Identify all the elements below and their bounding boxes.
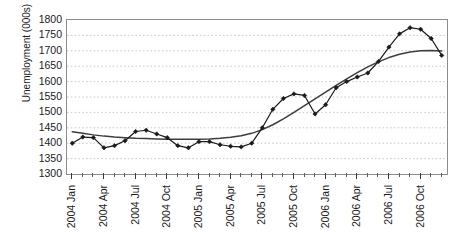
x-tick-mark: [92, 173, 93, 177]
data-point-marker: [292, 92, 296, 96]
x-tick-mark: [261, 173, 262, 179]
x-tick-mark: [356, 173, 357, 179]
y-tick-label: 1600: [18, 76, 62, 86]
x-tick-mark: [346, 173, 347, 177]
y-tick-label: 1750: [18, 29, 62, 39]
x-tick-mark: [114, 173, 115, 177]
x-tick-label: 2006 Oct: [414, 185, 426, 248]
y-tick-label: 1500: [18, 106, 62, 116]
y-tick-label: 1550: [18, 91, 62, 101]
y-tick-label: 1350: [18, 153, 62, 163]
y-tick-label: 1700: [18, 45, 62, 55]
x-tick-mark: [325, 173, 326, 179]
x-tick-mark: [177, 173, 178, 177]
x-tick-label: 2006 Apr: [350, 185, 362, 248]
x-tick-mark: [198, 173, 199, 179]
x-tick-label: 2004 Jan: [65, 185, 77, 248]
y-tick-label: 1400: [18, 137, 62, 147]
data-point-marker: [155, 132, 159, 136]
x-tick-mark: [367, 173, 368, 177]
x-tick-mark: [430, 173, 431, 177]
data-point-marker: [355, 75, 359, 79]
x-tick-mark: [293, 173, 294, 179]
x-tick-label: 2005 Apr: [224, 185, 236, 248]
x-tick-mark: [187, 173, 188, 177]
x-tick-mark: [409, 173, 410, 177]
trend-line: [72, 50, 441, 139]
x-tick-label: 2006 Jul: [382, 185, 394, 248]
x-tick-mark: [314, 173, 315, 177]
y-axis-tick-labels: 1800175017001650160015501500145014001350…: [18, 12, 62, 180]
data-point-marker: [144, 128, 148, 132]
x-tick-mark: [240, 173, 241, 177]
data-point-marker: [239, 145, 243, 149]
x-tick-label: 2004 Jul: [129, 185, 141, 248]
x-axis-tick-marks: [66, 173, 448, 180]
y-tick-label: 1650: [18, 60, 62, 70]
x-tick-mark: [377, 173, 378, 177]
x-tick-mark: [441, 173, 442, 177]
data-point-marker: [112, 143, 116, 147]
x-tick-label: 2004 Oct: [160, 185, 172, 248]
x-tick-label: 2005 Oct: [287, 185, 299, 248]
x-tick-mark: [145, 173, 146, 177]
x-tick-mark: [230, 173, 231, 179]
x-tick-mark: [219, 173, 220, 177]
plot-svg: [67, 20, 447, 174]
x-tick-mark: [156, 173, 157, 177]
x-tick-mark: [282, 173, 283, 177]
x-tick-mark: [71, 173, 72, 179]
x-tick-mark: [124, 173, 125, 177]
x-tick-mark: [399, 173, 400, 177]
data-point-marker: [218, 143, 222, 147]
data-point-marker: [228, 144, 232, 148]
x-tick-label: 2005 Jul: [255, 185, 267, 248]
x-tick-label: 2004 Apr: [97, 185, 109, 248]
y-tick-label: 1450: [18, 122, 62, 132]
x-tick-mark: [166, 173, 167, 179]
y-tick-label: 1300: [18, 168, 62, 178]
x-axis-tick-labels: 2004 Jan2004 Apr2004 Jul2004 Oct2005 Jan…: [66, 181, 448, 245]
unemployment-line-chart: Unemployment (000s) 18001750170016501600…: [0, 0, 468, 248]
y-tick-label: 1800: [18, 14, 62, 24]
x-tick-mark: [272, 173, 273, 177]
x-tick-mark: [420, 173, 421, 179]
x-tick-mark: [251, 173, 252, 177]
x-tick-mark: [135, 173, 136, 179]
plot-area: [66, 19, 448, 175]
x-tick-mark: [335, 173, 336, 177]
x-tick-label: 2006 Jan: [319, 185, 331, 248]
x-tick-label: 2005 Jan: [192, 185, 204, 248]
x-tick-mark: [304, 173, 305, 177]
x-tick-mark: [209, 173, 210, 177]
x-tick-mark: [103, 173, 104, 179]
x-tick-mark: [388, 173, 389, 179]
data-line: [72, 28, 441, 148]
x-tick-mark: [82, 173, 83, 177]
